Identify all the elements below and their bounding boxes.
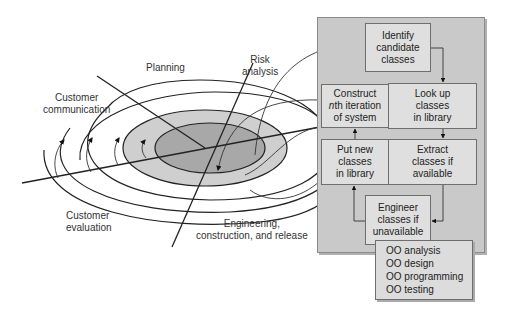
box-look-up-classes: Look up classes in library [388, 83, 477, 129]
oo-activities-box: OO analysis OO design OO programming OO … [375, 240, 473, 300]
label-line: Risk [242, 54, 278, 66]
label-line: Customer [66, 210, 112, 222]
box-extract-classes: Extract classes if available [388, 139, 477, 185]
label-engineering: Engineering, construction, and release [196, 218, 308, 242]
box-engineer-classes: Engineer classes if unavailable [365, 195, 431, 245]
box-line: in library [336, 168, 374, 180]
box-line: available [413, 168, 452, 180]
label-line: Engineering, [196, 218, 308, 230]
oo-item: OO analysis [386, 244, 472, 257]
oo-item: OO design [386, 257, 472, 270]
box-line: classes [338, 156, 371, 168]
box-line: Look up [415, 88, 451, 100]
box-line: classes [381, 54, 414, 66]
box-line: unavailable [373, 226, 424, 238]
label-customer-communication: Customer communication [43, 92, 110, 116]
box-line: Extract [417, 144, 448, 156]
box-line: in library [414, 112, 452, 124]
box-line: Engineer [378, 202, 418, 214]
box-line: Construct [334, 88, 377, 100]
label-line: communication [43, 104, 110, 116]
box-line: classes if [412, 156, 453, 168]
box-construct-nth-iteration: Construct nth iteration of system [321, 84, 389, 128]
box-line: classes if [377, 214, 418, 226]
oo-item: OO testing [386, 283, 472, 296]
box-line: of system [334, 112, 377, 124]
label-line: analysis [242, 66, 278, 78]
box-line: Identify [382, 30, 414, 42]
label-line: construction, and release [196, 230, 308, 242]
box-put-new-classes: Put new classes in library [321, 139, 389, 185]
oo-item: OO programming [386, 270, 472, 283]
label-customer-evaluation: Customer evaluation [66, 210, 112, 234]
label-line: evaluation [66, 222, 112, 234]
box-line: nth iteration [329, 100, 381, 112]
box-line: candidate [376, 42, 419, 54]
box-line: classes [416, 100, 449, 112]
label-risk-analysis: Risk analysis [242, 54, 278, 78]
label-line: Customer [43, 92, 110, 104]
box-identify-candidate-classes: Identify candidate classes [365, 23, 431, 72]
box-line: Put new [337, 144, 373, 156]
label-planning: Planning [146, 62, 185, 74]
